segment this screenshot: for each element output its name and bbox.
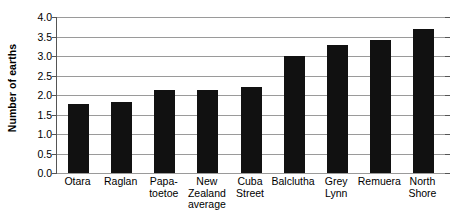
y-axis-tick-mark-left (52, 173, 57, 174)
y-axis-tick-mark-left (52, 76, 57, 77)
bar (241, 87, 262, 173)
y-axis-tick-mark-left (52, 95, 57, 96)
y-axis-tick-mark-left (52, 115, 57, 116)
y-axis-tick-mark-right (445, 95, 450, 96)
y-axis-tick-mark-right (445, 37, 450, 38)
gridline (57, 37, 445, 38)
bar (111, 102, 132, 173)
y-axis-tick-mark-left (52, 134, 57, 135)
y-axis-tick-mark-right (445, 154, 450, 155)
y-axis-tick-label: 3.0 (37, 51, 52, 62)
bar-chart: Number of earths 4.03.53.02.52.01.51.00.… (0, 0, 458, 224)
gridline (57, 17, 445, 18)
bar (68, 104, 89, 173)
bar (370, 40, 391, 173)
y-axis-tick-mark-right (445, 56, 450, 57)
plot-area (56, 17, 445, 173)
y-axis-tick-mark-right (445, 173, 450, 174)
y-axis-title: Number of earths (0, 0, 24, 176)
bar (154, 90, 175, 173)
x-axis-tick-labels: OtaraRaglanPapa- toetoeNew Zealand avera… (56, 176, 444, 224)
y-axis-tick-labels: 4.03.53.02.52.01.51.00.50.0 (24, 17, 54, 173)
y-axis-tick-label: 0.0 (37, 168, 52, 179)
y-axis-tick-label: 2.5 (37, 70, 52, 81)
gridline (57, 173, 445, 174)
y-axis-tick-label: 0.5 (37, 148, 52, 159)
bar (327, 45, 348, 173)
x-axis-tick-label: North Shore (396, 176, 448, 199)
bar (284, 56, 305, 173)
y-axis-tick-mark-left (52, 17, 57, 18)
y-axis-tick-mark-right (445, 76, 450, 77)
y-axis-tick-mark-left (52, 37, 57, 38)
y-axis-tick-mark-right (445, 115, 450, 116)
y-axis-tick-mark-left (52, 56, 57, 57)
y-axis-title-text: Number of earths (6, 44, 18, 133)
y-axis-tick-label: 1.5 (37, 109, 52, 120)
y-axis-tick-mark-right (445, 17, 450, 18)
bar (197, 90, 218, 173)
y-axis-tick-label: 2.0 (37, 90, 52, 101)
y-axis-tick-mark-left (52, 154, 57, 155)
y-axis-tick-label: 4.0 (37, 12, 52, 23)
y-axis-tick-label: 1.0 (37, 129, 52, 140)
bar (413, 29, 434, 173)
y-axis-tick-mark-right (445, 134, 450, 135)
y-axis-tick-label: 3.5 (37, 31, 52, 42)
